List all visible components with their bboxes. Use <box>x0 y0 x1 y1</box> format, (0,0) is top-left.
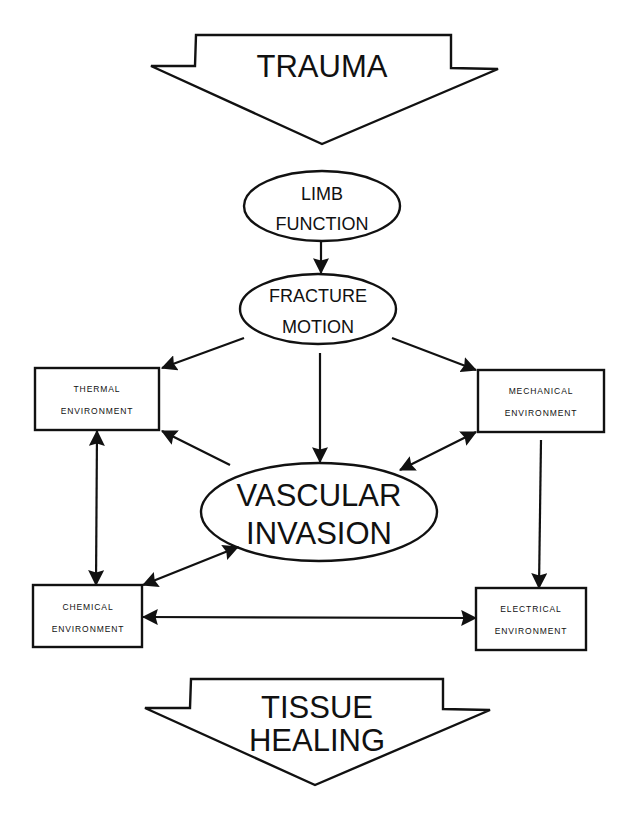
fracture-motion-node: FRACTURE MOTION <box>240 274 396 344</box>
vascular-invasion-node: VASCULAR INVASION <box>201 463 437 561</box>
arrow-thermal-chemical-bidirectional <box>96 431 97 585</box>
arrow-fracture-to-mechanical <box>392 338 476 370</box>
electrical-line2: ENVIRONMENT <box>495 626 568 636</box>
fracture-motion-line1: FRACTURE <box>269 286 367 306</box>
arrow-vascular-to-thermal <box>162 431 230 465</box>
tissue-healing-line1: TISSUE <box>261 690 373 725</box>
electrical-environment-node: ELECTRICAL ENVIRONMENT <box>476 588 586 650</box>
mechanical-line1: MECHANICAL <box>509 386 574 396</box>
arrow-fracture-to-thermal <box>162 338 244 368</box>
trauma-label: TRAUMA <box>257 49 388 84</box>
chemical-line2: ENVIRONMENT <box>52 624 125 634</box>
thermal-line2: ENVIRONMENT <box>61 406 134 416</box>
limb-function-line2: FUNCTION <box>276 214 369 234</box>
trauma-arrow: TRAUMA <box>151 35 498 144</box>
arrow-chemical-electrical-bidirectional <box>143 617 476 618</box>
fracture-motion-line2: MOTION <box>282 317 354 337</box>
vascular-invasion-line2: INVASION <box>246 516 392 551</box>
tissue-healing-line2: HEALING <box>249 723 385 758</box>
limb-function-line1: LIMB <box>301 184 343 204</box>
vascular-invasion-line1: VASCULAR <box>237 478 402 513</box>
tissue-healing-arrow: TISSUE HEALING <box>145 679 490 785</box>
bone-healing-flow-diagram: TRAUMA LIMB FUNCTION FRACTURE MOTION THE… <box>0 0 639 821</box>
limb-function-node: LIMB FUNCTION <box>244 171 400 241</box>
arrow-vascular-chemical-bidirectional <box>143 547 238 585</box>
thermal-environment-node: THERMAL ENVIRONMENT <box>35 368 159 430</box>
arrow-vascular-mechanical-bidirectional <box>400 432 476 470</box>
chemical-line1: CHEMICAL <box>62 602 113 612</box>
thermal-line1: THERMAL <box>74 384 121 394</box>
mechanical-line2: ENVIRONMENT <box>505 408 578 418</box>
mechanical-environment-node: MECHANICAL ENVIRONMENT <box>478 370 604 432</box>
arrow-mechanical-to-electrical <box>539 440 541 588</box>
electrical-line1: ELECTRICAL <box>500 604 561 614</box>
chemical-environment-node: CHEMICAL ENVIRONMENT <box>33 585 142 647</box>
